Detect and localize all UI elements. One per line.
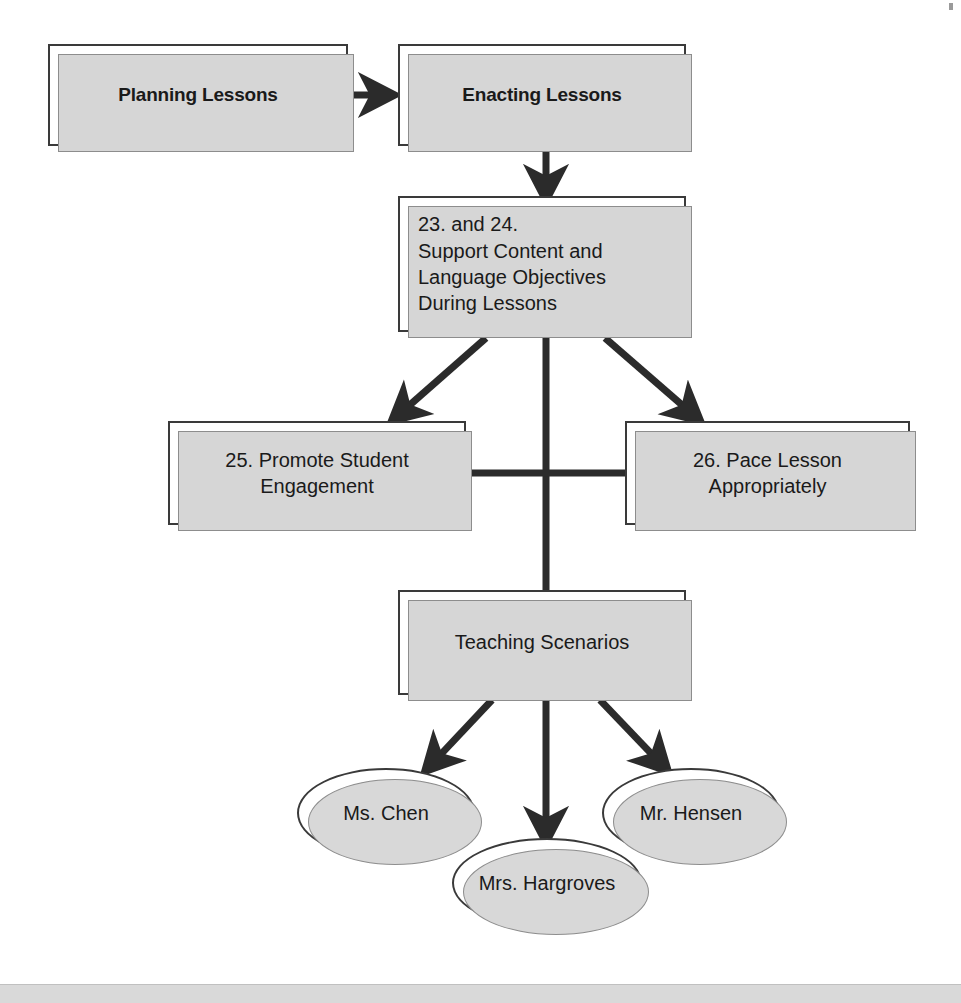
edge-scenarios-to-ms-chen xyxy=(428,700,492,768)
node-label-enacting-lessons: Enacting Lessons xyxy=(462,82,621,107)
page-footer-bar xyxy=(0,984,961,1003)
node-label-mrs-hargroves: Mrs. Hargroves xyxy=(479,872,616,895)
edge-support-to-promote xyxy=(395,338,486,418)
edge-scenarios-to-mr-hensen xyxy=(600,700,665,768)
node-teaching-scenarios[interactable]: Teaching Scenarios xyxy=(398,590,686,695)
node-label-promote-engagement: 25. Promote Student Engagement xyxy=(225,447,408,500)
page-corner-mark xyxy=(949,3,953,10)
node-promote-engagement[interactable]: 25. Promote Student Engagement xyxy=(168,421,466,525)
node-enacting-lessons[interactable]: Enacting Lessons xyxy=(398,44,686,146)
node-planning-lessons[interactable]: Planning Lessons xyxy=(48,44,348,146)
node-pace-lesson[interactable]: 26. Pace Lesson Appropriately xyxy=(625,421,910,525)
node-mr-hensen[interactable]: Mr. Hensen xyxy=(602,768,780,858)
node-mrs-hargroves[interactable]: Mrs. Hargroves xyxy=(452,838,642,928)
node-label-ms-chen: Ms. Chen xyxy=(343,802,429,825)
node-label-support-objectives: 23. and 24. Support Content and Language… xyxy=(418,211,606,317)
node-label-planning-lessons: Planning Lessons xyxy=(118,82,277,107)
node-label-pace-lesson: 26. Pace Lesson Appropriately xyxy=(693,447,842,500)
edge-support-to-pace xyxy=(605,338,697,418)
node-ms-chen[interactable]: Ms. Chen xyxy=(297,768,475,858)
node-label-mr-hensen: Mr. Hensen xyxy=(640,802,742,825)
node-label-teaching-scenarios: Teaching Scenarios xyxy=(455,629,630,655)
node-support-objectives[interactable]: 23. and 24. Support Content and Language… xyxy=(398,196,686,332)
